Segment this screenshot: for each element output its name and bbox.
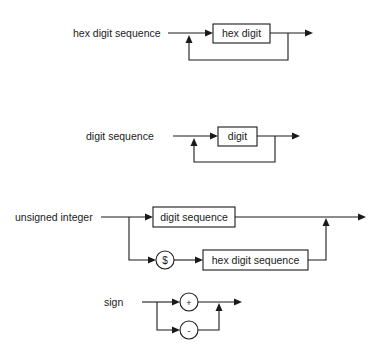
terminal-dollar-text: $ bbox=[162, 255, 168, 266]
unsigned-integer-diagram: unsigned integer digit sequence $ hex di… bbox=[15, 207, 366, 270]
label-digit-sequence: digit sequence bbox=[86, 130, 154, 142]
arrow-icon bbox=[358, 214, 366, 221]
terminal-plus-text: + bbox=[186, 298, 191, 308]
merge-path bbox=[198, 310, 219, 330]
arrow-up-icon bbox=[186, 35, 193, 43]
branch-path bbox=[129, 217, 150, 260]
nonterminal-digit-sequence-text: digit sequence bbox=[160, 211, 228, 223]
arrow-icon bbox=[205, 30, 213, 37]
arrow-up-icon bbox=[216, 303, 223, 311]
label-sign: sign bbox=[104, 296, 123, 308]
arrow-icon bbox=[292, 133, 300, 140]
merge-path bbox=[308, 225, 326, 260]
arrow-up-icon bbox=[191, 138, 198, 146]
arrow-icon bbox=[210, 133, 218, 140]
arrow-icon bbox=[195, 257, 203, 264]
branch-path bbox=[157, 302, 174, 330]
digit-sequence-diagram: digit sequence digit bbox=[86, 127, 300, 162]
arrow-icon bbox=[148, 257, 156, 264]
sign-diagram: sign + - bbox=[104, 293, 242, 339]
hex-digit-sequence-diagram: hex digit sequence hex digit bbox=[73, 24, 313, 60]
arrow-icon bbox=[172, 299, 180, 306]
label-unsigned-integer: unsigned integer bbox=[15, 211, 93, 223]
arrow-icon bbox=[145, 214, 153, 221]
label-hex-digit-sequence: hex digit sequence bbox=[73, 27, 161, 39]
nonterminal-hex-digit-sequence-text: hex digit sequence bbox=[212, 254, 300, 266]
arrow-icon bbox=[172, 327, 180, 334]
nonterminal-hex-digit-text: hex digit bbox=[222, 27, 261, 39]
syntax-diagrams: hex digit sequence hex digit digit seque… bbox=[0, 0, 387, 357]
arrow-icon bbox=[305, 30, 313, 37]
terminal-minus-text: - bbox=[188, 326, 191, 336]
arrow-icon bbox=[234, 299, 242, 306]
nonterminal-digit-text: digit bbox=[228, 130, 247, 142]
arrow-up-icon bbox=[323, 218, 330, 226]
